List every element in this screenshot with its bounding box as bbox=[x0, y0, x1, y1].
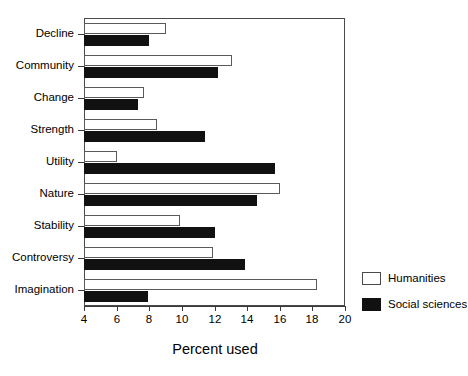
bar-nature-social-sciences bbox=[84, 195, 257, 206]
y-tick-imagination bbox=[78, 290, 84, 291]
legend-label-social-sciences: Social sciences bbox=[388, 297, 467, 311]
y-tick-stability bbox=[78, 226, 84, 227]
x-tick-label-18: 18 bbox=[297, 313, 327, 325]
y-tick-utility bbox=[78, 162, 84, 163]
y-tick-change bbox=[78, 98, 84, 99]
filled-square-swatch-icon bbox=[362, 298, 381, 311]
bar-controversy-social-sciences bbox=[84, 259, 245, 270]
y-tick-decline bbox=[78, 34, 84, 35]
y-axis-label-strength: Strength bbox=[0, 124, 74, 136]
y-axis-label-community: Community bbox=[0, 60, 74, 72]
x-tick-16 bbox=[280, 306, 281, 311]
y-tick-community bbox=[78, 66, 84, 67]
x-tick-label-10: 10 bbox=[167, 313, 197, 325]
bar-nature-humanities bbox=[84, 183, 280, 194]
bar-utility-social-sciences bbox=[84, 163, 275, 174]
bar-community-social-sciences bbox=[84, 67, 218, 78]
x-tick-8 bbox=[149, 306, 150, 311]
bar-stability-humanities bbox=[84, 215, 180, 226]
x-tick-label-8: 8 bbox=[134, 313, 164, 325]
bar-strength-social-sciences bbox=[84, 131, 205, 142]
bar-imagination-social-sciences bbox=[84, 291, 148, 302]
bar-controversy-humanities bbox=[84, 247, 213, 258]
x-tick-label-12: 12 bbox=[200, 313, 230, 325]
y-axis-label-imagination: Imagination bbox=[0, 284, 74, 296]
x-tick-label-4: 4 bbox=[69, 313, 99, 325]
x-tick-label-16: 16 bbox=[265, 313, 295, 325]
x-tick-18 bbox=[312, 306, 313, 311]
bar-decline-humanities bbox=[84, 23, 166, 34]
x-axis-title: Percent used bbox=[84, 341, 346, 357]
bar-utility-humanities bbox=[84, 151, 117, 162]
x-tick-10 bbox=[182, 306, 183, 311]
bar-change-humanities bbox=[84, 87, 144, 98]
percent-used-bar-chart: DeclineCommunityChangeStrengthUtilityNat… bbox=[0, 0, 468, 376]
y-tick-controversy bbox=[78, 258, 84, 259]
x-tick-label-20: 20 bbox=[330, 313, 360, 325]
bar-stability-social-sciences bbox=[84, 227, 215, 238]
y-axis-label-nature: Nature bbox=[0, 188, 74, 200]
bar-community-humanities bbox=[84, 55, 232, 66]
y-axis-label-decline: Decline bbox=[0, 28, 74, 40]
y-axis-label-stability: Stability bbox=[0, 220, 74, 232]
x-tick-12 bbox=[215, 306, 216, 311]
x-tick-14 bbox=[247, 306, 248, 311]
x-tick-20 bbox=[345, 306, 346, 311]
y-axis-label-controversy: Controversy bbox=[0, 252, 74, 264]
y-tick-nature bbox=[78, 194, 84, 195]
x-tick-label-6: 6 bbox=[102, 313, 132, 325]
bar-strength-humanities bbox=[84, 119, 157, 130]
y-axis-label-change: Change bbox=[0, 92, 74, 104]
legend-label-humanities: Humanities bbox=[388, 271, 446, 285]
y-tick-strength bbox=[78, 130, 84, 131]
x-tick-label-14: 14 bbox=[232, 313, 262, 325]
bar-decline-social-sciences bbox=[84, 35, 149, 46]
bar-imagination-humanities bbox=[84, 279, 317, 290]
bar-change-social-sciences bbox=[84, 99, 138, 110]
open-square-swatch-icon bbox=[362, 272, 381, 285]
x-tick-4 bbox=[84, 306, 85, 311]
y-axis-label-utility: Utility bbox=[0, 156, 74, 168]
x-tick-6 bbox=[117, 306, 118, 311]
